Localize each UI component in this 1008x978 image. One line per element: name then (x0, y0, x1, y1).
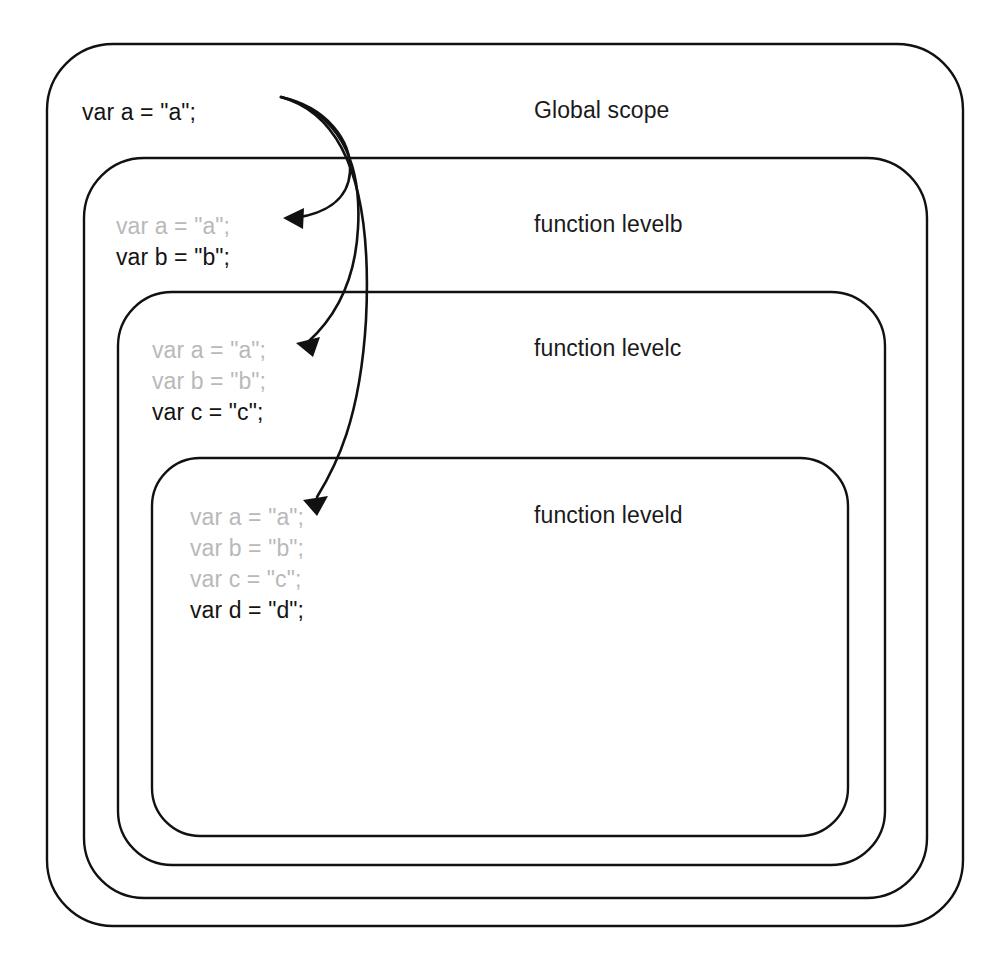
arrow-head-levelb (283, 208, 304, 229)
code-line-leveld-var-b: var b = "b"; (190, 533, 304, 564)
code-line-levelc-var-c: var c = "c"; (152, 397, 266, 428)
arrow-head-leveld (303, 496, 328, 516)
code-line-levelc-var-b: var b = "b"; (152, 366, 266, 397)
code-line-leveld-var-c: var c = "c"; (190, 564, 304, 595)
scope-diagram-canvas: Global scope var a = "a"; function level… (0, 0, 1008, 978)
code-line-levelb-var-a: var a = "a"; (116, 211, 230, 242)
arrow-head-levelc (296, 337, 320, 357)
scope-label-global: Global scope (534, 97, 669, 124)
scope-label-levelc: function levelc (534, 335, 681, 362)
code-line-global-var-a: var a = "a"; (82, 97, 196, 128)
code-line-levelc-var-a: var a = "a"; (152, 335, 266, 366)
code-line-levelb-var-b: var b = "b"; (116, 242, 230, 273)
code-block-global: var a = "a"; (82, 97, 196, 128)
scope-label-levelb: function levelb (534, 211, 683, 238)
scope-label-leveld: function leveld (534, 502, 683, 529)
code-block-levelb: var a = "a"; var b = "b"; (116, 211, 230, 273)
code-block-leveld: var a = "a"; var b = "b"; var c = "c"; v… (190, 502, 304, 626)
scope-boxes-and-arrows (0, 0, 1008, 978)
code-line-leveld-var-a: var a = "a"; (190, 502, 304, 533)
code-line-leveld-var-d: var d = "d"; (190, 595, 304, 626)
scope-box-global (47, 44, 963, 926)
code-block-levelc: var a = "a"; var b = "b"; var c = "c"; (152, 335, 266, 428)
